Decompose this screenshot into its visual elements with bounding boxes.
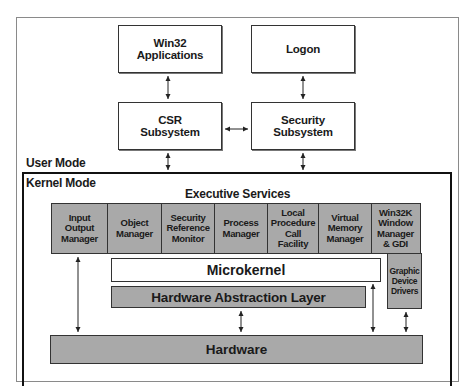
- connector-arrows: [0, 0, 475, 390]
